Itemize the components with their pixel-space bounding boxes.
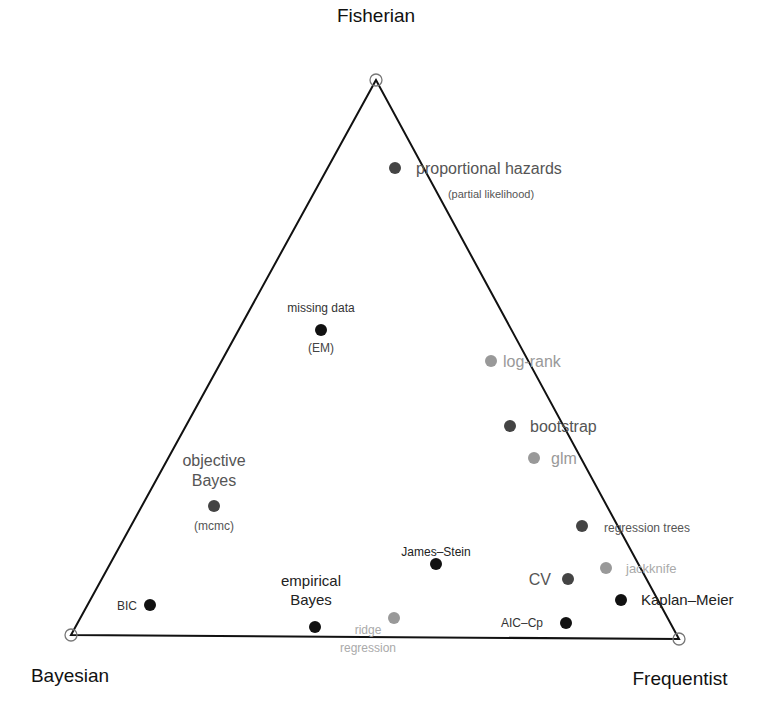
point-marker-icon [388,612,400,624]
method-label: (partial likelihood) [448,188,534,200]
method-label: jackknife [625,561,677,576]
method-james-stein: James–Stein [401,545,470,570]
point-marker-icon [430,558,442,570]
vertex-markers: FisherianBayesianFrequentist [31,5,728,689]
point-marker-icon [615,594,627,606]
method-label: missing data [287,301,355,315]
method-regression-trees: regression trees [576,520,690,535]
method-label: regression trees [604,521,690,535]
method-label: bootstrap [530,418,597,435]
method-label: Bayes [192,472,236,489]
method-cv: CV [529,571,574,588]
vertex-label-fisherian: Fisherian [337,5,415,26]
method-label: ridge [355,623,382,637]
method-bic: BIC [117,599,156,613]
method-label: James–Stein [401,545,470,559]
method-glm: glm [528,450,577,467]
method-kaplan-meier: Kaplan–Meier [615,591,734,608]
method-proportional-hazards: proportional hazards(partial likelihood) [389,160,562,200]
triangle [71,80,679,639]
point-marker-icon [309,621,321,633]
point-marker-icon [576,520,588,532]
method-label: regression [340,641,396,655]
method-empirical-bayes: empiricalBayes [281,572,341,633]
point-marker-icon [562,573,574,585]
method-label: CV [529,571,552,588]
point-marker-icon [208,500,220,512]
method-label: empirical [281,572,341,589]
triangle-outline [71,80,679,639]
method-log-rank: log-rank [485,353,562,370]
point-marker-icon [528,452,540,464]
method-ridge-regression: ridgeregression [340,612,400,655]
method-label: proportional hazards [416,160,562,177]
point-marker-icon [504,420,516,432]
method-aic-cp: AIC–Cp [501,616,572,630]
method-label: objective [182,452,245,469]
method-objective-bayes: objectiveBayes(mcmc) [182,452,245,533]
vertex-label-frequentist: Frequentist [632,668,728,689]
method-bootstrap: bootstrap [504,418,597,435]
method-label: AIC–Cp [501,616,543,630]
method-label: BIC [117,599,137,613]
point-marker-icon [560,617,572,629]
point-marker-icon [315,324,327,336]
statistics-triangle-diagram: FisherianBayesianFrequentist proportiona… [0,0,782,724]
method-label: log-rank [503,353,562,370]
method-label: Kaplan–Meier [641,591,734,608]
method-label: glm [551,450,577,467]
point-marker-icon [600,562,612,574]
vertex-label-bayesian: Bayesian [31,665,109,686]
point-marker-icon [389,162,401,174]
method-points: proportional hazards(partial likelihood)… [117,160,734,655]
method-label: Bayes [290,591,332,608]
method-jackknife: jackknife [600,561,677,576]
method-label: (mcmc) [194,519,234,533]
point-marker-icon [485,355,497,367]
method-missing-data: missing data(EM) [287,301,355,355]
method-label: (EM) [308,341,334,355]
point-marker-icon [144,599,156,611]
